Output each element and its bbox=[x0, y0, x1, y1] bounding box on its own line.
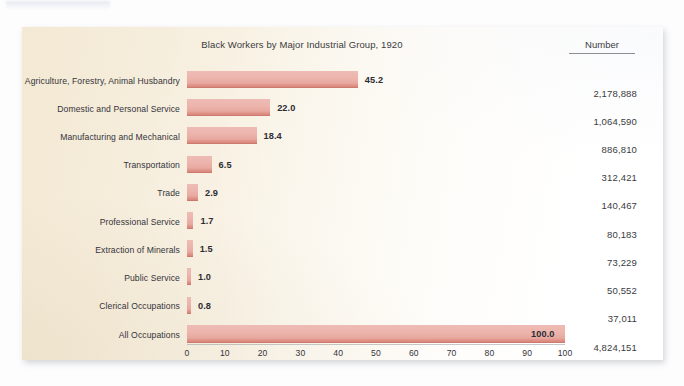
x-axis-line bbox=[187, 344, 565, 345]
scan-artifact bbox=[6, 1, 110, 10]
category-label: Manufacturing and Mechanical bbox=[22, 132, 180, 142]
category-label: Domestic and Personal Service bbox=[22, 104, 180, 114]
x-axis-tick-label: 70 bbox=[440, 348, 464, 358]
number-cell: 80,183 bbox=[607, 229, 637, 240]
x-axis-tick-label: 40 bbox=[326, 348, 350, 358]
bar bbox=[187, 184, 198, 201]
number-column-header: Number bbox=[569, 39, 635, 54]
plot-area: Agriculture, Forestry, Animal Husbandry4… bbox=[22, 27, 663, 360]
x-axis-tick-label: 90 bbox=[515, 348, 539, 358]
scanned-page: Black Workers by Major Industrial Group,… bbox=[0, 0, 684, 386]
x-axis-tick-label: 10 bbox=[213, 348, 237, 358]
bar bbox=[187, 127, 257, 144]
bar-value-label: 18.4 bbox=[264, 131, 282, 141]
number-cell: 37,011 bbox=[608, 313, 637, 324]
bar bbox=[187, 297, 191, 314]
bar-value-label: 1.7 bbox=[200, 216, 213, 226]
number-cell: 1,064,590 bbox=[593, 116, 637, 127]
bar bbox=[187, 99, 270, 116]
x-axis-tick-label: 20 bbox=[251, 348, 275, 358]
bar bbox=[187, 212, 193, 229]
bar-value-label: 1.0 bbox=[198, 272, 211, 282]
x-axis-tick-label: 30 bbox=[288, 348, 312, 358]
bar-value-label: 0.8 bbox=[198, 301, 211, 311]
category-label: Transportation bbox=[22, 160, 180, 170]
bar-value-label: 6.5 bbox=[219, 160, 232, 170]
number-cell: 73,229 bbox=[607, 257, 637, 268]
number-cell: 312,421 bbox=[602, 172, 637, 183]
bar-value-label: 1.5 bbox=[200, 244, 213, 254]
bar-value-label: 100.0 bbox=[531, 329, 555, 339]
category-label: All Occupations bbox=[22, 330, 180, 340]
x-axis-tick-label: 0 bbox=[175, 348, 199, 358]
bar bbox=[187, 240, 193, 257]
bar-value-label: 2.9 bbox=[205, 188, 218, 198]
number-cell: 886,810 bbox=[602, 144, 637, 155]
number-cell: 2,178,888 bbox=[593, 88, 637, 99]
bar bbox=[187, 71, 358, 88]
number-cell: 4,824,151 bbox=[593, 342, 637, 353]
number-column: Number 2,178,8881,064,590886,810312,4211… bbox=[551, 39, 655, 54]
category-label: Clerical Occupations bbox=[22, 301, 180, 311]
bar bbox=[187, 156, 212, 173]
category-label: Trade bbox=[22, 188, 180, 198]
chart-panel: Black Workers by Major Industrial Group,… bbox=[22, 27, 663, 360]
number-cell: 50,552 bbox=[607, 285, 637, 296]
bar bbox=[187, 268, 191, 285]
x-axis-tick-label: 60 bbox=[402, 348, 426, 358]
bar-value-label: 22.0 bbox=[277, 103, 295, 113]
x-axis-tick-label: 80 bbox=[477, 348, 501, 358]
chart-title: Black Workers by Major Industrial Group,… bbox=[22, 39, 582, 50]
bar-value-label: 45.2 bbox=[365, 75, 383, 85]
number-cell: 140,467 bbox=[602, 200, 637, 211]
category-label: Professional Service bbox=[22, 217, 180, 227]
x-axis-tick-label: 100 bbox=[553, 348, 577, 358]
category-label: Public Service bbox=[22, 273, 180, 283]
category-label: Agriculture, Forestry, Animal Husbandry bbox=[22, 76, 180, 86]
category-label: Extraction of Minerals bbox=[22, 245, 180, 255]
x-axis-tick-label: 50 bbox=[364, 348, 388, 358]
bar bbox=[187, 325, 565, 343]
